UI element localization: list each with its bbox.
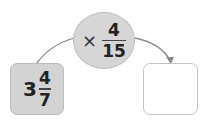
operation-fraction: 4 15 <box>102 21 126 61</box>
outgoing-arrow <box>135 38 170 60</box>
incoming-curve <box>37 38 74 63</box>
answer-box[interactable] <box>143 63 198 115</box>
input-denominator: 7 <box>39 91 51 109</box>
operation-numerator: 4 <box>108 21 120 39</box>
input-box: 3 4 7 <box>10 63 64 115</box>
input-whole: 3 <box>23 77 37 101</box>
input-numerator: 4 <box>39 69 51 87</box>
multiply-sign: × <box>82 32 97 50</box>
operation-oval: × 4 15 <box>73 12 135 69</box>
operation-denominator: 15 <box>102 42 126 60</box>
input-fraction: 4 7 <box>39 69 51 109</box>
